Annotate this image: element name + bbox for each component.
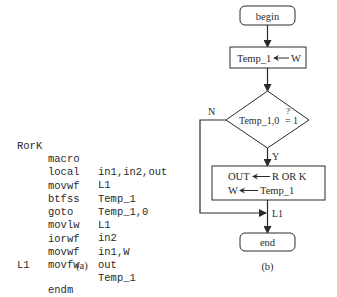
process-line1-right: R OR K [272, 171, 307, 182]
decision-compare: = [285, 115, 291, 126]
process-line2-right: Temp_1 [260, 185, 294, 196]
process-line1-left: OUT [228, 171, 250, 182]
process-line2-left: W [228, 185, 238, 196]
end-label: end [260, 237, 276, 248]
begin-label: begin [256, 11, 280, 22]
decision-text: Temp_1,0 [239, 115, 279, 126]
junction-label: L1 [272, 208, 283, 219]
caption-b: (b) [261, 261, 274, 273]
branch-yes-label: Y [272, 151, 279, 162]
code-mnemonic: endm [48, 284, 73, 297]
assign-right: W [291, 53, 301, 64]
assign-left: Temp_1 [237, 53, 271, 64]
branch-no-label: N [208, 106, 215, 117]
decision-value: 1 [293, 115, 298, 126]
